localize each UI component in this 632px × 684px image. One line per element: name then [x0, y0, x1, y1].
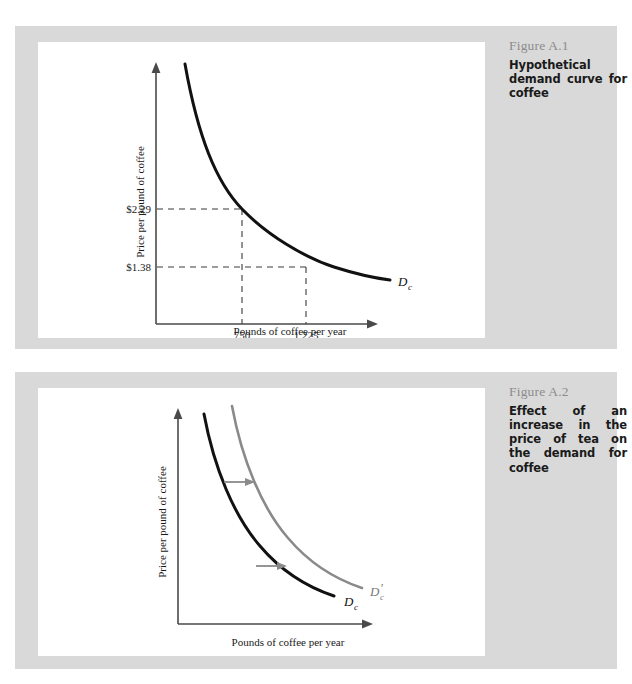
x-tick-label-0: 750: [234, 329, 251, 338]
figure-panel-a1: D c $2.29 $1.38 750 1,225 Price per poun…: [15, 26, 617, 349]
figure-caption-a2: Figure A.2 Effect of an increase in the …: [509, 384, 627, 475]
figure-caption-a1: Figure A.1 Hypothetical demand curve for…: [509, 38, 627, 100]
demand-curve-dc-a1: [185, 64, 390, 280]
figure-caption-title-a2: Figure A.2: [509, 384, 627, 401]
demand-curve-dc-prime-a2: [232, 406, 362, 588]
demand-curve-dc-a2: [204, 414, 334, 596]
svg-text:c: c: [408, 282, 412, 292]
svg-text:c: c: [354, 602, 358, 612]
svg-text:D: D: [397, 274, 408, 289]
figure-caption-body-a1: Hypothetical demand curve for coffee: [509, 58, 627, 101]
y-tick-label-1: $1.38: [126, 261, 151, 273]
svg-text:c: c: [380, 592, 384, 602]
y-axis-label-a2: Price per pound of coffee: [156, 466, 168, 578]
curve-label-dc-a2: D c: [343, 594, 358, 612]
y-axis-label-a1: Price per pound of coffee: [134, 146, 146, 258]
curve-label-dc-prime-a2: D ′ c: [369, 580, 384, 602]
chart-a1: D c $2.29 $1.38 750 1,225 Price per poun…: [38, 42, 485, 338]
plot-area-a2: D ′ c D c Price per pound of coffee Poun…: [38, 388, 485, 656]
svg-text:D: D: [369, 584, 380, 599]
page-background: D c $2.29 $1.38 750 1,225 Price per poun…: [0, 0, 632, 684]
y-axis-a1: [152, 62, 161, 324]
curve-label-dc-a1: D c: [397, 274, 412, 292]
y-axis-a2: [174, 408, 183, 624]
x-axis-a2: [178, 620, 373, 629]
plot-area-a1: D c $2.29 $1.38 750 1,225 Price per poun…: [38, 42, 485, 338]
x-tick-label-1: 1,225: [294, 329, 319, 338]
figure-caption-body-a2: Effect of an increase in the price of te…: [509, 404, 627, 475]
figure-caption-title-a1: Figure A.1: [509, 38, 627, 55]
x-axis-label-a2: Pounds of coffee per year: [232, 636, 345, 648]
shift-arrow-upper-a2: [224, 478, 255, 486]
guide-lines-a1: [157, 209, 306, 324]
svg-text:D: D: [343, 594, 354, 609]
figure-panel-a2: D ′ c D c Price per pound of coffee Poun…: [15, 372, 617, 669]
x-axis-a1: [156, 320, 378, 329]
chart-a2: D ′ c D c Price per pound of coffee Poun…: [38, 388, 485, 656]
